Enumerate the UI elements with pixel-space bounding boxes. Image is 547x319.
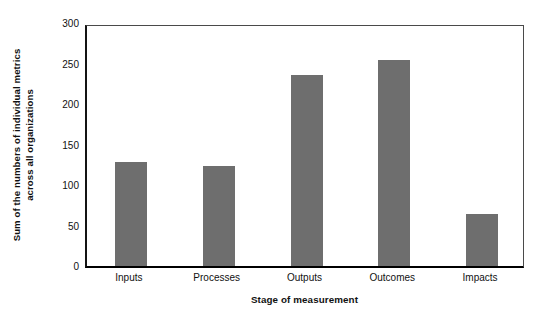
- bar-chart-figure: Sum of the numbers of individual metrics…: [0, 0, 547, 319]
- x-axis-title: Stage of measurement: [85, 294, 524, 305]
- bar: [291, 75, 323, 266]
- bar: [378, 60, 410, 266]
- x-axis-tick-label: Outputs: [255, 272, 355, 283]
- bar: [466, 214, 498, 266]
- y-axis-tick-label: 300: [9, 18, 79, 29]
- x-axis-tick-label: Processes: [167, 272, 267, 283]
- bar: [115, 162, 147, 266]
- x-axis-tick-label: Outcomes: [342, 272, 442, 283]
- x-axis-tick-label: Impacts: [430, 272, 530, 283]
- y-axis-tick-label: 250: [9, 59, 79, 70]
- y-axis-tick-label: 150: [9, 140, 79, 151]
- x-axis-tick-label: Inputs: [79, 272, 179, 283]
- plot-area: [85, 25, 524, 268]
- y-axis-tick-label: 50: [9, 221, 79, 232]
- y-axis-tick-label: 0: [9, 261, 79, 272]
- y-axis-tick-label: 100: [9, 180, 79, 191]
- y-axis-tick-label: 200: [9, 99, 79, 110]
- bar: [203, 166, 235, 266]
